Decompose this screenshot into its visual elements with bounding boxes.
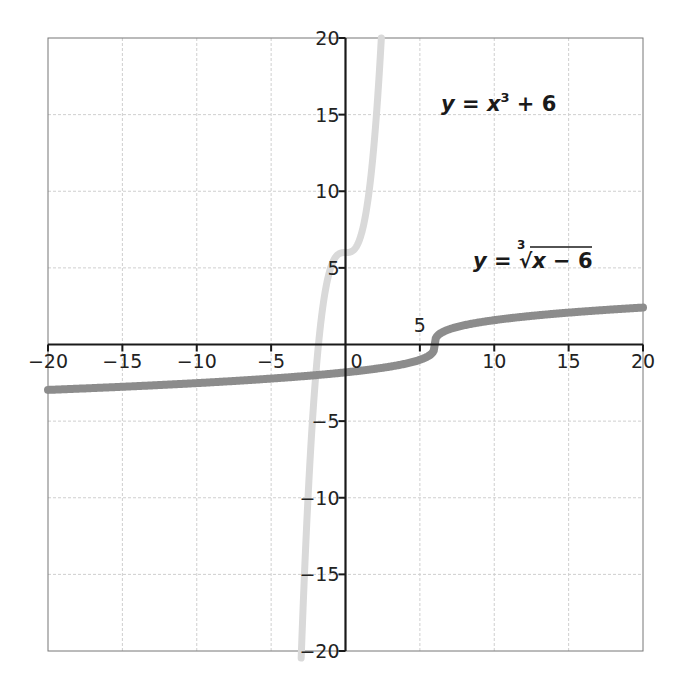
y-tick-label: 5 [327, 257, 339, 279]
x-tick-label: 15 [557, 350, 581, 372]
eq1-rest: + 6 [510, 92, 557, 116]
chart-canvas: −20−15−10−505101520−20−15−10−55101520 y … [0, 0, 675, 685]
y-tick-label: 20 [315, 27, 339, 49]
x-tick-label: 5 [414, 314, 426, 336]
y-tick-label: 15 [315, 104, 339, 126]
y-tick-label: 10 [315, 180, 339, 202]
x-tick-label: 0 [350, 350, 362, 372]
x-tick-label: −20 [28, 350, 68, 372]
x-tick-label: −5 [257, 350, 285, 372]
y-tick-label: −20 [299, 640, 339, 662]
eq2-rest: − 6 [546, 249, 593, 273]
x-tick-label: −15 [102, 350, 142, 372]
equation-label-cubic: y = x3 + 6 [441, 90, 556, 116]
eq2-equals: = [487, 249, 519, 273]
y-tick-label: −5 [311, 410, 339, 432]
x-tick-label: 20 [631, 350, 655, 372]
svg-text:y = √x − 6: y = √x − 6 [473, 249, 593, 273]
radical-sign-icon: √ [519, 249, 533, 273]
y-tick-label: −15 [299, 563, 339, 585]
eq1-exponent: 3 [500, 90, 509, 105]
eq1-equals: = [455, 92, 487, 116]
eq2-root-index: 3 [517, 238, 525, 252]
y-tick-label: −10 [299, 487, 339, 509]
axes [48, 38, 643, 651]
equation-label-cuberoot: y = √x − 6 3 [473, 238, 593, 273]
x-tick-label: −10 [177, 350, 217, 372]
x-tick-label: 10 [482, 350, 506, 372]
